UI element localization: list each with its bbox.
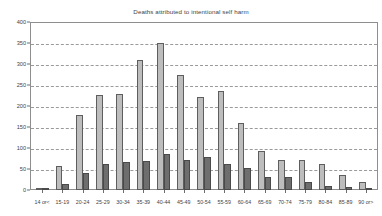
bar-female xyxy=(123,162,130,190)
x-axis-tick-label: 75-79 xyxy=(295,199,315,213)
bar-male xyxy=(137,60,144,190)
bar-group xyxy=(72,22,92,190)
bar-group xyxy=(113,22,133,190)
tick-mark xyxy=(83,190,84,193)
tick-mark xyxy=(62,190,63,193)
y-axis-tick-label: 400 xyxy=(17,19,26,25)
x-axis-tick-label: 15-19 xyxy=(52,199,72,213)
tick-mark xyxy=(164,190,165,193)
bar-group xyxy=(93,22,113,190)
bar-female xyxy=(184,160,191,190)
bar-group xyxy=(133,22,153,190)
tick-mark xyxy=(244,190,245,193)
bar-group xyxy=(32,22,52,190)
bar-group xyxy=(295,22,315,190)
tick-mark xyxy=(305,190,306,193)
tick-mark xyxy=(204,190,205,193)
bar-male xyxy=(299,160,306,190)
x-axis-tick-label: 14 or< xyxy=(32,199,52,213)
tick-mark xyxy=(224,190,225,193)
tick-mark xyxy=(265,190,266,193)
bar-group xyxy=(336,22,356,190)
tick-mark xyxy=(42,190,43,193)
bar-group xyxy=(214,22,234,190)
bar-male xyxy=(359,182,366,190)
x-axis-tick-label: 85-89 xyxy=(336,199,356,213)
x-axis-tick-label: 80-84 xyxy=(315,199,335,213)
y-axis-tick-label: 50 xyxy=(20,166,26,172)
bar-group xyxy=(275,22,295,190)
bar-male xyxy=(197,97,204,190)
bar-male xyxy=(258,151,265,190)
x-axis-tick-label: 60-64 xyxy=(234,199,254,213)
bar-female xyxy=(285,177,292,190)
y-axis-tick-label: 200 xyxy=(17,103,26,109)
bar-female xyxy=(143,161,150,190)
chart-container: Deaths attributed to intentional self ha… xyxy=(0,0,382,216)
bar-female xyxy=(305,182,312,190)
x-axis-tick-label: 35-39 xyxy=(133,199,153,213)
bar-group xyxy=(174,22,194,190)
y-axis-tick-label: 100 xyxy=(17,145,26,151)
tick-mark xyxy=(184,190,185,193)
y-axis-tick-label: 0 xyxy=(23,187,26,193)
y-axis-tick-label: 250 xyxy=(17,82,26,88)
bar-group xyxy=(194,22,214,190)
bar-group xyxy=(52,22,72,190)
bar-group xyxy=(356,22,376,190)
tick-mark xyxy=(103,190,104,193)
bar-female xyxy=(103,164,110,190)
bar-group xyxy=(234,22,254,190)
bar-male xyxy=(116,94,123,190)
x-axis-tick-label: 30-34 xyxy=(113,199,133,213)
tick-mark xyxy=(123,190,124,193)
bar-male xyxy=(319,164,326,190)
bar-group xyxy=(315,22,335,190)
bar-group xyxy=(255,22,275,190)
y-axis-tick-label: 300 xyxy=(17,61,26,67)
tick-mark xyxy=(366,190,367,193)
bar-female xyxy=(265,177,272,190)
bar-female xyxy=(83,173,90,190)
x-axis-tick-label: 50-54 xyxy=(194,199,214,213)
x-axis-tick-label: 25-29 xyxy=(93,199,113,213)
bar-female xyxy=(244,168,251,190)
x-axis-tick-label: 55-59 xyxy=(214,199,234,213)
bar-female xyxy=(164,154,171,190)
tick-mark xyxy=(143,190,144,193)
bar-male xyxy=(238,123,245,190)
chart-title: Deaths attributed to intentional self ha… xyxy=(0,8,382,15)
x-axis-tick-label: 90 or> xyxy=(356,199,376,213)
y-axis-tick-label: 150 xyxy=(17,124,26,130)
x-axis-tick-label: 40-44 xyxy=(153,199,173,213)
x-axis-labels: 14 or<15-1920-2425-2930-3435-3940-4445-4… xyxy=(30,199,378,213)
bar-male xyxy=(278,160,285,190)
bar-male xyxy=(157,43,164,190)
tick-mark xyxy=(325,190,326,193)
bar-male xyxy=(339,175,346,190)
bar-male xyxy=(177,75,184,191)
bar-male xyxy=(76,115,83,190)
bar-group xyxy=(153,22,173,190)
tick-mark xyxy=(346,190,347,193)
bar-male xyxy=(218,91,225,190)
x-axis-tick-label: 20-24 xyxy=(72,199,92,213)
bar-female xyxy=(224,164,231,190)
tick-mark xyxy=(285,190,286,193)
bar-male xyxy=(56,166,63,190)
plot-area xyxy=(30,22,378,190)
bar-female xyxy=(204,157,211,190)
bar-male xyxy=(96,95,103,190)
x-axis-tick-label: 45-49 xyxy=(174,199,194,213)
y-axis: 050100150200250300350400 xyxy=(0,22,30,190)
x-axis-tick-label: 70-74 xyxy=(275,199,295,213)
y-axis-tick-label: 350 xyxy=(17,40,26,46)
x-axis-tick-label: 65-69 xyxy=(255,199,275,213)
